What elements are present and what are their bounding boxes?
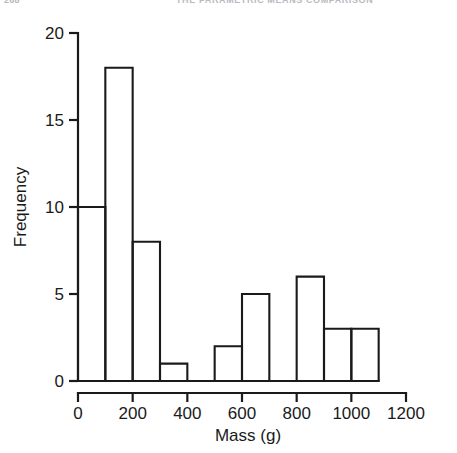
- x-axis-ticks: [78, 393, 406, 402]
- histogram-bar: [215, 346, 242, 381]
- histogram-svg: 05101520 Frequency 020040060080010001200…: [0, 0, 457, 453]
- histogram-figure: 05101520 Frequency 020040060080010001200…: [0, 0, 457, 453]
- x-tick-label: 1200: [387, 404, 425, 423]
- y-tick-label: 15: [45, 111, 64, 130]
- x-tick-label: 800: [282, 404, 310, 423]
- histogram-bar: [160, 364, 187, 381]
- x-tick-label: 200: [118, 404, 146, 423]
- y-axis-tick-labels: 05101520: [45, 24, 64, 391]
- y-tick-label: 0: [55, 372, 64, 391]
- x-tick-label: 400: [173, 404, 201, 423]
- x-tick-label: 600: [228, 404, 256, 423]
- x-axis: 020040060080010001200 Mass (g): [73, 393, 425, 445]
- x-tick-label: 1000: [332, 404, 370, 423]
- y-tick-label: 10: [45, 198, 64, 217]
- histogram-bar: [78, 207, 105, 381]
- histogram-bars: [78, 68, 379, 381]
- y-axis-title: Frequency: [11, 166, 30, 247]
- histogram-bar: [105, 68, 132, 381]
- y-tick-label: 20: [45, 24, 64, 43]
- y-tick-label: 5: [55, 285, 64, 304]
- y-axis: 05101520 Frequency: [11, 24, 78, 391]
- x-tick-label: 0: [73, 404, 82, 423]
- histogram-bar: [351, 329, 378, 381]
- histogram-bar: [297, 277, 324, 381]
- histogram-bar: [242, 294, 269, 381]
- x-axis-tick-labels: 020040060080010001200: [73, 404, 425, 423]
- histogram-bar: [133, 242, 160, 381]
- histogram-bar: [324, 329, 351, 381]
- x-axis-title: Mass (g): [215, 426, 281, 445]
- y-axis-ticks: [69, 33, 78, 381]
